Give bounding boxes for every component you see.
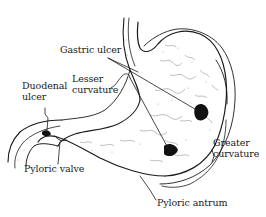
label-gastric-ulcer: Gastric ulcer bbox=[60, 45, 121, 55]
pyloric-antrum-leader bbox=[140, 176, 156, 200]
gastric-ulcer-mark bbox=[194, 104, 208, 120]
lesser-curvature-line bbox=[58, 100, 140, 146]
label-duodenal-ulcer-line1: Duodenal bbox=[22, 81, 67, 92]
pyloric-antrum-ulcer-mark bbox=[164, 144, 178, 156]
gastric-ulcer-leader bbox=[108, 58, 200, 112]
label-greater-curvature-line2: curvature bbox=[213, 149, 259, 160]
greater-curvature-arc bbox=[216, 60, 227, 104]
duodenum-mucosa bbox=[15, 126, 60, 168]
stomach-diagram bbox=[0, 0, 266, 217]
label-pyloric-antrum: Pyloric antrum bbox=[157, 198, 227, 208]
label-lesser-curvature-line2: curvature bbox=[72, 85, 118, 96]
antrum-ulcer-leader bbox=[130, 78, 168, 148]
label-pyloric-valve: Pyloric valve bbox=[24, 164, 84, 174]
label-lesser-curvature-line1: Lesser bbox=[72, 74, 118, 85]
esophagus-inner-wall bbox=[128, 18, 135, 66]
label-greater-curvature: Greater curvature bbox=[213, 138, 259, 159]
label-lesser-curvature: Lesser curvature bbox=[72, 74, 118, 95]
duodenal-ulcer-leader bbox=[45, 108, 48, 130]
label-duodenal-ulcer-line2: ulcer bbox=[22, 92, 67, 103]
label-greater-curvature-line1: Greater bbox=[213, 138, 259, 149]
label-duodenal-ulcer: Duodenal ulcer bbox=[22, 81, 67, 102]
mucosa-texture bbox=[80, 45, 218, 162]
